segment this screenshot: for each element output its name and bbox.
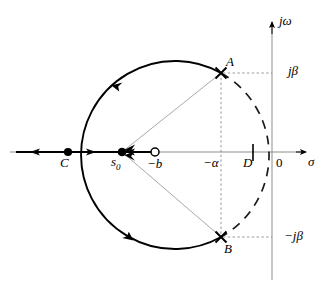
- point-marker-minus-b-zero: [151, 148, 159, 156]
- point-markers-group: [64, 68, 253, 243]
- label-minus-b: −b: [147, 157, 162, 170]
- label-C: C: [60, 156, 69, 169]
- label-A: A: [226, 55, 234, 68]
- label-axis-sigma: σ: [308, 155, 314, 168]
- label-D: D: [243, 156, 252, 169]
- label-minus-alpha: −α: [203, 156, 219, 169]
- label-B: B: [224, 242, 232, 255]
- label-minus-j-beta: −jβ: [284, 229, 303, 242]
- label-axis-jomega: jω: [279, 14, 292, 27]
- label-s0-subscript: 0: [116, 162, 121, 172]
- construction-line-s0-to-A: [122, 73, 221, 152]
- real-axis-locus-group: [16, 148, 155, 155]
- label-origin-zero: 0: [276, 156, 283, 169]
- s-plane-plot: [0, 0, 328, 286]
- label-s0: s0: [111, 155, 121, 172]
- label-j-beta: jβ: [288, 64, 298, 77]
- root-locus-figure: C s0 −b −α D 0 σ jω jβ −jβ A B: [0, 0, 328, 286]
